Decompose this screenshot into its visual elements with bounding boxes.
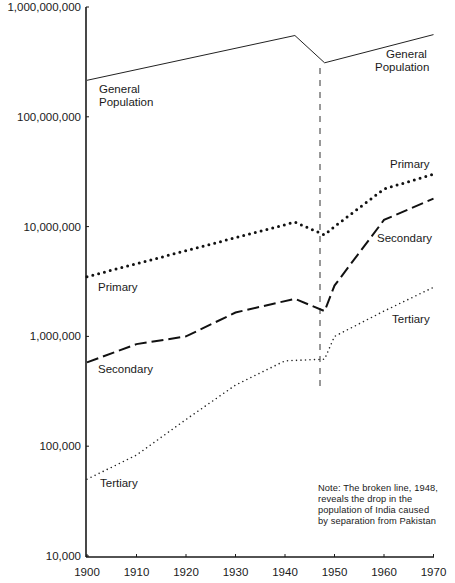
- x-tick-label: 1920: [173, 566, 199, 578]
- footnote: Note: The broken line, 1948, reveals the…: [318, 483, 455, 527]
- label-general-left-1: General: [99, 83, 140, 95]
- x-tick-label: 1900: [74, 566, 100, 578]
- y-tick-label: 100,000: [39, 440, 81, 452]
- y-tick-label: 10,000: [46, 550, 81, 562]
- label-general-left-2: Population: [99, 96, 153, 108]
- label-tertiary-left: Tertiary: [100, 477, 138, 489]
- y-tick-label: 1,000,000: [30, 330, 81, 342]
- series-primary: [87, 174, 434, 277]
- x-tick-label: 1950: [322, 566, 348, 578]
- label-primary-left: Primary: [98, 281, 138, 293]
- x-tick-label: 1970: [421, 566, 447, 578]
- series-secondary: [87, 199, 434, 363]
- x-tick-label: 1960: [371, 566, 397, 578]
- y-tick-label: 10,000,000: [23, 221, 81, 233]
- series-general-population: [87, 35, 434, 81]
- note-line: population of India caused: [318, 505, 455, 516]
- label-general-right-2: Population: [375, 61, 429, 73]
- x-tick-label: 1930: [223, 566, 249, 578]
- label-secondary-left: Secondary: [98, 363, 153, 375]
- y-tick-label: 100,000,000: [17, 111, 81, 123]
- y-tick-label: 1,000,000,000: [7, 1, 81, 13]
- x-tick-label: 1940: [272, 566, 298, 578]
- note-line: by separation from Pakistan: [318, 516, 455, 527]
- label-secondary-right: Secondary: [377, 232, 432, 244]
- series-tertiary: [87, 287, 434, 479]
- label-general-right-1: General: [386, 48, 427, 60]
- note-line: Note: The broken line, 1948,: [318, 483, 455, 494]
- y-tick-labels: 1,000,000,000100,000,00010,000,0001,000,…: [7, 1, 89, 562]
- label-primary-right: Primary: [390, 158, 430, 170]
- label-tertiary-right: Tertiary: [392, 313, 430, 325]
- x-tick-label: 1910: [124, 566, 150, 578]
- note-line: reveals the drop in the: [318, 494, 455, 505]
